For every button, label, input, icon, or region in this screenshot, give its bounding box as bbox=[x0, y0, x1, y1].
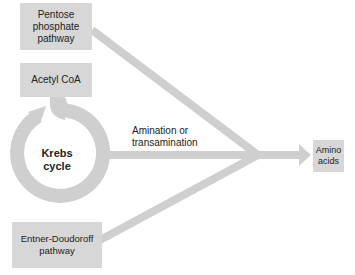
amination-label: Amination or transamination bbox=[132, 125, 198, 149]
pentose-phosphate-box: Pentose phosphate pathway bbox=[20, 3, 92, 50]
amino-acids-label: Amino acids bbox=[316, 145, 342, 167]
acetyl-coa-label: Acetyl CoA bbox=[31, 74, 80, 86]
amino-acids-box: Amino acids bbox=[313, 140, 344, 172]
krebs-to-amino-bar bbox=[106, 151, 302, 159]
krebs-cycle-label: Krebs cycle bbox=[37, 147, 77, 173]
entner-doudoroff-label: Entner-Doudoroff pathway bbox=[21, 233, 94, 257]
entner-doudoroff-box: Entner-Doudoroff pathway bbox=[12, 222, 102, 268]
acetyl-coa-box: Acetyl CoA bbox=[20, 63, 92, 97]
pentose-phosphate-label: Pentose phosphate pathway bbox=[33, 9, 80, 45]
entner-to-amino-line bbox=[100, 155, 258, 240]
amino-arrowhead-icon bbox=[299, 144, 311, 166]
